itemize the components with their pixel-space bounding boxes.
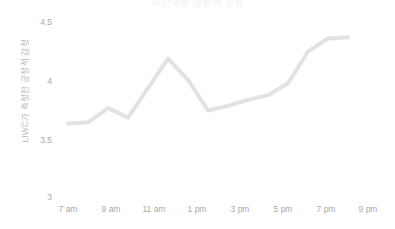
- x-tick-label: 7 am: [59, 205, 78, 214]
- y-tick-label: 3: [26, 193, 52, 202]
- x-tick-label: 9 am: [102, 205, 121, 214]
- x-tick-label: 3 pm: [231, 205, 250, 214]
- x-tick-label: 5 pm: [274, 205, 293, 214]
- x-tick-label: 7 pm: [317, 205, 336, 214]
- line-chart: 시간대별 긍정적 감정 LIWC가 측정한 긍정적 감정 4.5 4 3.5 3…: [0, 0, 395, 229]
- y-tick-label: 4: [26, 77, 52, 86]
- plot-area: [58, 10, 388, 202]
- chart-title: 시간대별 긍정적 감정: [0, 0, 395, 9]
- x-tick-label: 1 pm: [188, 205, 207, 214]
- series-line-positive-affect: [58, 10, 388, 202]
- x-axis-tick-labels: 7 am 9 am 11 am 1 pm 3 pm 5 pm 7 pm 9 pm: [0, 205, 395, 219]
- y-axis-tick-labels: 4.5 4 3.5 3: [22, 0, 52, 229]
- y-tick-label: 3.5: [26, 136, 52, 145]
- x-tick-label: 9 pm: [359, 205, 378, 214]
- y-tick-label: 4.5: [26, 18, 52, 27]
- x-tick-label: 11 am: [143, 205, 166, 214]
